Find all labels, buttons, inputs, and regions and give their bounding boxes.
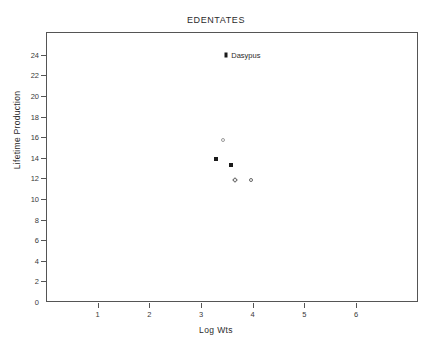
y-axis-tick-label: 4 <box>9 256 39 265</box>
x-axis-tick-label: 6 <box>346 310 366 319</box>
y-axis-tick-mark <box>41 96 46 97</box>
data-point-marker[interactable] <box>229 163 233 167</box>
x-axis-tick-label: 2 <box>139 310 159 319</box>
data-point-marker[interactable] <box>214 157 218 161</box>
x-axis-tick-label: 3 <box>191 310 211 319</box>
y-axis-tick-mark <box>41 281 46 282</box>
x-axis-title: Log Wts <box>0 325 432 335</box>
y-axis-title: Lifetime Production <box>12 75 22 185</box>
chart-page: EDENTATES Dasypus 024681012141618202224 … <box>0 0 432 350</box>
y-axis-tick-label: 24 <box>9 50 39 59</box>
data-point-marker[interactable] <box>249 178 253 182</box>
plot-area: Dasypus <box>46 32 418 302</box>
y-axis-tick-label: 2 <box>9 277 39 286</box>
y-axis-tick-mark <box>41 261 46 262</box>
y-axis-tick-mark <box>41 117 46 118</box>
x-axis-tick-label: 1 <box>88 310 108 319</box>
data-point-label: Dasypus <box>231 50 260 59</box>
y-axis-tick-mark <box>41 137 46 138</box>
x-axis-tick-label: 5 <box>294 310 314 319</box>
y-axis-tick-label: 0 <box>9 298 39 307</box>
y-axis-tick-label: 8 <box>9 215 39 224</box>
y-axis-tick-mark <box>41 55 46 56</box>
x-axis-tick-mark <box>356 303 357 308</box>
x-axis-tick-mark <box>98 303 99 308</box>
y-axis-tick-mark <box>41 220 46 221</box>
y-axis-tick-mark <box>41 240 46 241</box>
data-point-marker[interactable] <box>232 177 238 183</box>
y-axis-tick-label: 10 <box>9 194 39 203</box>
y-axis-tick-mark <box>41 199 46 200</box>
y-axis-tick-mark <box>41 158 46 159</box>
y-axis-tick-label: 6 <box>9 236 39 245</box>
x-axis-tick-mark <box>201 303 202 308</box>
x-axis-tick-label: 4 <box>243 310 263 319</box>
y-axis-tick-mark <box>41 75 46 76</box>
x-axis-tick-mark <box>149 303 150 308</box>
chart-title: EDENTATES <box>0 15 432 25</box>
x-axis-tick-mark <box>304 303 305 308</box>
y-axis-tick-mark <box>41 178 46 179</box>
data-point-marker[interactable] <box>221 138 225 142</box>
data-point-marker[interactable] <box>225 52 228 57</box>
x-axis-tick-mark <box>253 303 254 308</box>
